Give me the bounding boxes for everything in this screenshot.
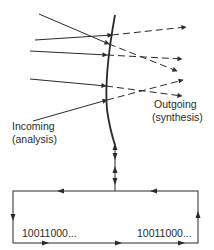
arrow-right-icon bbox=[42, 241, 49, 246]
arrow-up-icon bbox=[113, 143, 118, 150]
arrow-left-icon bbox=[57, 189, 64, 194]
bitstream-right: 10011000... bbox=[137, 227, 192, 239]
outgoing-ray bbox=[106, 86, 182, 96]
incoming-label: Incoming bbox=[12, 120, 55, 132]
bitstream-left: 10011000... bbox=[22, 227, 77, 239]
arrow-up-icon bbox=[196, 211, 201, 218]
arrow-left-icon bbox=[150, 189, 157, 194]
outgoing-ray bbox=[112, 27, 186, 35]
incoming-ray bbox=[30, 79, 106, 86]
outgoing-rays bbox=[106, 27, 186, 100]
incoming-rays bbox=[30, 14, 112, 121]
outgoing-ray bbox=[109, 44, 177, 71]
outgoing-ray bbox=[107, 80, 183, 100]
arrow-down-icon bbox=[11, 214, 16, 221]
analysis-synthesis-diagram: Outgoing (synthesis) Incoming (analysis)… bbox=[0, 0, 214, 250]
arrow-right-icon bbox=[115, 241, 122, 246]
synthesis-label: (synthesis) bbox=[152, 111, 203, 123]
incoming-ray bbox=[33, 100, 107, 121]
incoming-ray bbox=[30, 51, 107, 55]
arrow-up-icon bbox=[113, 166, 118, 173]
arrow-right-icon bbox=[178, 241, 185, 246]
incoming-ray bbox=[35, 35, 112, 40]
outgoing-label: Outgoing bbox=[154, 98, 197, 110]
arrow-down-icon bbox=[113, 178, 118, 185]
analysis-label: (analysis) bbox=[12, 133, 57, 145]
arrow-down-icon bbox=[113, 153, 118, 160]
